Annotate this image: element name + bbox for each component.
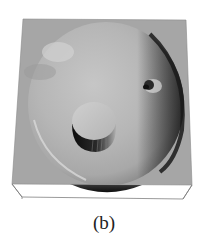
shade-patch: [24, 64, 56, 80]
figure-caption: (b): [0, 212, 208, 234]
surface-plot-svg: [0, 0, 208, 242]
light-patch: [42, 42, 74, 62]
surface-figure: (b): [0, 0, 208, 242]
cylinder-plug: [72, 102, 116, 152]
bowl-underside: [70, 184, 142, 192]
